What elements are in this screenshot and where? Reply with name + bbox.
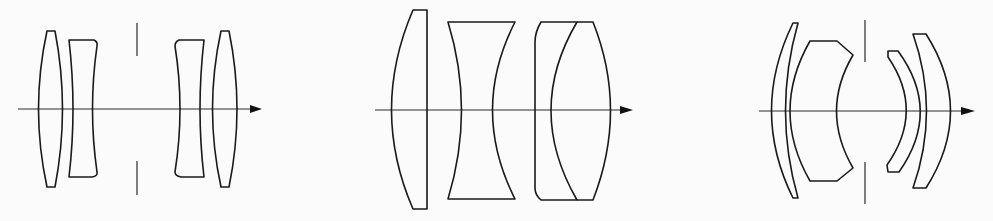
cemented-doublet-rear-element [577, 22, 611, 200]
panel-1-lens-diagram [18, 23, 262, 195]
lens-diagram-figure [0, 0, 993, 221]
cemented-doublet-front-element [535, 22, 577, 200]
axis-arrow-icon [961, 107, 975, 115]
panel-3-lens-diagram [759, 20, 975, 204]
axis-arrow-icon [250, 105, 262, 113]
panel-2-lens-diagram [375, 10, 633, 209]
axis-arrow-icon [620, 106, 633, 114]
